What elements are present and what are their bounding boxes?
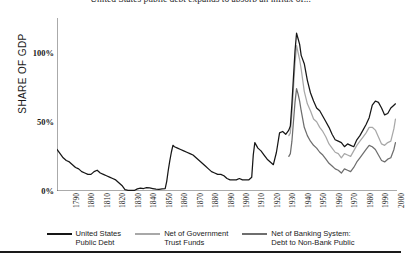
- x-axis-tick-label: 1840: [149, 193, 158, 223]
- plot-area: [57, 18, 397, 191]
- x-axis-tick-label: 1990: [381, 193, 390, 223]
- x-axis-tick-label: 1920: [273, 193, 282, 223]
- chart-legend: United States Public DebtNet of Governme…: [0, 229, 401, 251]
- x-axis-tick-label: 1870: [196, 193, 205, 223]
- chart-series-line: [289, 89, 396, 173]
- legend-item-public-debt: United States Public Debt: [47, 229, 122, 247]
- y-axis-tick-label: 100%: [20, 49, 54, 57]
- x-axis-tick-label: 1960: [335, 193, 344, 223]
- legend-item-trust-funds: Net of Government Trust Funds: [135, 229, 228, 247]
- x-axis-tick-label: 1810: [103, 193, 112, 223]
- x-axis-tick-label: 1830: [134, 193, 143, 223]
- y-axis-tick-label: 50%: [20, 118, 54, 126]
- x-axis-tick-label: 1950: [319, 193, 328, 223]
- bottom-divider: [0, 251, 401, 253]
- y-axis-tick-label: 0%: [20, 187, 54, 195]
- legend-line-swatch: [47, 233, 72, 235]
- x-axis-tick-label: 1980: [366, 193, 375, 223]
- chart-series-line: [57, 33, 395, 190]
- legend-line-swatch: [242, 233, 267, 235]
- legend-label: Net of Banking System: Debt to Non-Bank …: [271, 229, 354, 247]
- x-axis-tick-label: 1910: [257, 193, 266, 223]
- x-axis-tick-label: 1940: [304, 193, 313, 223]
- y-axis-tick-labels: 0%50%100%: [16, 0, 54, 258]
- x-axis-tick-label: 1890: [227, 193, 236, 223]
- x-axis-tick-labels: 1790180018101820183018401850186018701880…: [57, 193, 401, 227]
- x-axis-tick-label: 1800: [87, 193, 96, 223]
- x-axis-tick-label: 1860: [180, 193, 189, 223]
- x-axis-tick-label: 1790: [72, 193, 81, 223]
- x-axis-tick-label: 1900: [242, 193, 251, 223]
- chart-series-line: [289, 46, 396, 158]
- legend-line-swatch: [135, 233, 160, 235]
- x-axis-tick-label: 2000: [397, 193, 406, 223]
- x-axis-tick-label: 1880: [211, 193, 220, 223]
- chart-lines: [57, 18, 397, 191]
- x-axis-tick-label: 1820: [118, 193, 127, 223]
- x-axis-tick-label: 1930: [288, 193, 297, 223]
- legend-label: United States Public Debt: [76, 229, 122, 247]
- x-axis-tick-label: 1970: [350, 193, 359, 223]
- legend-item-non-bank-public: Net of Banking System: Debt to Non-Bank …: [242, 229, 354, 247]
- chart-title: United States public debt expands to abs…: [0, 0, 401, 5]
- legend-label: Net of Government Trust Funds: [164, 229, 228, 247]
- x-axis-tick-label: 1850: [165, 193, 174, 223]
